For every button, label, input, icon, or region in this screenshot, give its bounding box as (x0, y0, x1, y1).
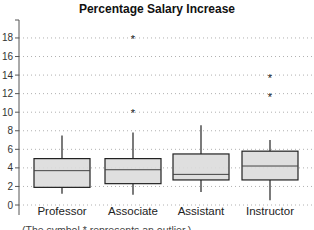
category-label: Instructor (246, 205, 294, 217)
y-tick-label: 14 (2, 70, 14, 81)
y-tick-label: 12 (2, 88, 14, 99)
outlier-marker: * (268, 91, 273, 103)
y-tick-label: 0 (7, 200, 13, 211)
outlier-marker: * (268, 72, 273, 84)
box-professor (34, 159, 90, 188)
outlier-marker: * (131, 107, 136, 119)
y-tick-label: 8 (7, 125, 13, 136)
y-tick-label: 18 (2, 32, 14, 43)
y-tick-label: 2 (7, 181, 13, 192)
y-tick-label: 4 (7, 162, 13, 173)
box-assistant (173, 154, 229, 180)
y-tick-label: 16 (2, 51, 14, 62)
category-label: Associate (108, 205, 158, 217)
box-associate (105, 159, 161, 184)
category-label: Assistant (178, 205, 225, 217)
box-plot: 024681012141618Professor**AssociateAssis… (0, 0, 314, 230)
outlier-marker: * (131, 33, 136, 45)
y-tick-label: 10 (2, 107, 14, 118)
outlier-caption: (The symbol * represents an outlier.) (22, 224, 191, 230)
category-label: Professor (37, 205, 86, 217)
y-tick-label: 6 (7, 144, 13, 155)
